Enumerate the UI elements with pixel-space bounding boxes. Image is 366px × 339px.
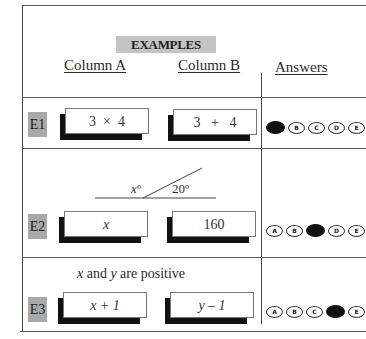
- var-y: y: [110, 266, 116, 281]
- e3-column-a-box: x + 1: [63, 292, 147, 318]
- e2-column-a-box: x: [64, 211, 148, 237]
- e3-bubble-d[interactable]: [326, 305, 345, 318]
- e2-answer-bubbles: A B D E: [266, 225, 365, 237]
- e2-bubble-a[interactable]: A: [266, 225, 283, 237]
- e3-bubble-a[interactable]: A: [266, 306, 283, 318]
- e3-column-b-box: y – 1: [170, 292, 254, 318]
- e2-column-a-value: x: [64, 211, 148, 237]
- e3-bubble-e[interactable]: E: [348, 306, 365, 318]
- var-x: x: [77, 266, 83, 281]
- e3-condition: x and y are positive: [0, 266, 262, 282]
- e2-column-b-box: 160: [172, 211, 256, 237]
- e3-bubble-b[interactable]: B: [286, 306, 303, 318]
- e2-column-b-value: 160: [172, 211, 256, 237]
- row-label-e2: E2: [28, 214, 47, 239]
- row-label-e3: E3: [28, 297, 47, 322]
- e2-bubble-c[interactable]: [306, 224, 325, 237]
- e2-bubble-b[interactable]: B: [286, 225, 303, 237]
- angle-x-label: xº: [131, 181, 141, 197]
- e2-bubble-d[interactable]: D: [328, 225, 345, 237]
- angle-20-label: 20º: [172, 181, 189, 197]
- e3-column-a-value: x + 1: [63, 292, 147, 318]
- e2-bubble-e[interactable]: E: [348, 225, 365, 237]
- e3-answer-bubbles: A B C E: [266, 306, 365, 318]
- angle-figure: [0, 0, 366, 339]
- e3-bubble-c[interactable]: C: [306, 306, 323, 318]
- e3-column-b-value: y – 1: [170, 292, 254, 318]
